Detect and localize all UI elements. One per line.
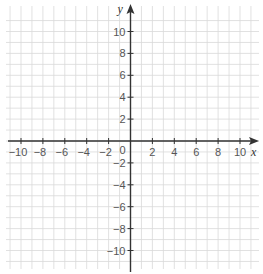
axes	[8, 4, 259, 272]
y-tick-label: −10	[107, 245, 126, 257]
x-tick-label: −2	[99, 146, 112, 158]
y-tick-label: 4	[119, 91, 125, 103]
x-tick-label: 4	[171, 146, 177, 158]
x-tick-label: 8	[215, 146, 221, 158]
y-tick-label: 6	[119, 69, 125, 81]
y-tick-label: 10	[113, 26, 125, 38]
x-tick-label: 2	[149, 146, 155, 158]
x-axis-label: x	[250, 145, 257, 159]
y-tick-label: 8	[119, 47, 125, 59]
grid-lines	[6, 6, 259, 269]
x-tick-label: −4	[77, 146, 90, 158]
x-tick-label: −8	[34, 146, 47, 158]
y-tick-label: −8	[113, 223, 126, 235]
y-axis-label: y	[117, 2, 124, 16]
y-tick-label: 2	[119, 113, 125, 125]
x-tick-label: −6	[56, 146, 69, 158]
x-tick-label: 10	[234, 146, 246, 158]
x-tick-label: 6	[193, 146, 199, 158]
x-tick-label: −10	[9, 146, 28, 158]
y-tick-label: −4	[113, 179, 126, 191]
coordinate-grid: −10−8−6−4−2246810−10−8−6−4−2246810 x y 0	[0, 0, 263, 274]
y-tick-label: −6	[113, 201, 126, 213]
origin-label: 0	[120, 144, 126, 156]
y-tick-label: −2	[113, 157, 126, 169]
